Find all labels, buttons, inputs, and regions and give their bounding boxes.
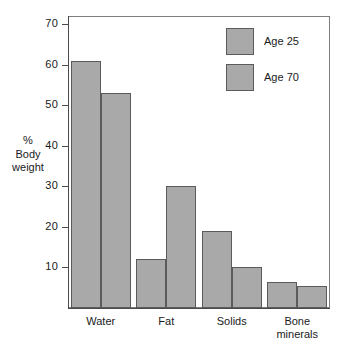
bar-water-age-25 (71, 61, 101, 308)
y-axis-tick-label-70: 70 (18, 18, 58, 29)
y-axis-tick-40 (62, 146, 69, 147)
legend-swatch-age-25 (226, 28, 254, 55)
bar-bone-minerals-age-70 (297, 286, 327, 308)
y-axis-tick-label-60: 60 (18, 59, 58, 70)
bar-bone-minerals-age-25 (267, 282, 297, 308)
y-axis-tick-70 (62, 24, 69, 25)
y-axis-line (68, 16, 69, 309)
x-axis-label-line: Bone (247, 315, 347, 328)
y-axis-tick-50 (62, 105, 69, 106)
y-axis-tick-10 (62, 267, 69, 268)
y-axis-title-line-2: Body (6, 148, 50, 162)
y-axis-title-line-1: % (6, 134, 50, 148)
bar-solids-age-70 (232, 267, 262, 308)
legend-label-age-70: Age 70 (264, 71, 299, 83)
y-axis-tick-30 (62, 186, 69, 187)
legend-swatch-age-70 (226, 64, 254, 91)
bar-chart: 10203040506070 % Body weight WaterFatSol… (0, 0, 347, 348)
y-axis-title-line-3: weight (6, 161, 50, 175)
x-axis-line (68, 308, 330, 309)
y-axis-tick-60 (62, 65, 69, 66)
x-axis-label-bone-minerals: Boneminerals (247, 315, 347, 341)
y-axis-title: % Body weight (6, 134, 50, 175)
y-axis-tick-label-10: 10 (18, 261, 58, 272)
y-axis-tick-label-30: 30 (18, 180, 58, 191)
x-axis-label-line: minerals (247, 328, 347, 341)
bar-fat-age-25 (136, 259, 166, 308)
legend-label-age-25: Age 25 (264, 35, 299, 47)
bar-solids-age-25 (202, 231, 232, 308)
bar-water-age-70 (101, 93, 131, 308)
y-axis-tick-20 (62, 227, 69, 228)
y-axis-tick-label-50: 50 (18, 99, 58, 110)
y-axis-tick-label-20: 20 (18, 221, 58, 232)
bar-fat-age-70 (166, 186, 196, 308)
